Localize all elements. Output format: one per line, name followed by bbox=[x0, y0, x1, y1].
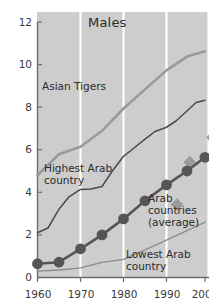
y-tick-0: 0 bbox=[6, 271, 32, 283]
x-tick-1980: 1980 bbox=[104, 288, 144, 300]
x-tick-2000: 2000 bbox=[185, 288, 209, 300]
y-tick-8: 8 bbox=[6, 101, 32, 113]
y-tick-2: 2 bbox=[6, 228, 32, 240]
y-tick-12: 12 bbox=[6, 16, 32, 28]
annotation-highest-arab-country: Highest Arab country bbox=[44, 162, 112, 186]
y-tick-6: 6 bbox=[6, 143, 32, 155]
y-tick-4: 4 bbox=[6, 186, 32, 198]
annotation-arab-countries-average: Arab countries (average) bbox=[148, 192, 199, 228]
annotation-asian-tigers: Asian Tigers bbox=[42, 80, 106, 92]
chart-figure: Males 12 10 8 6 4 2 0 1960 1970 1980 199… bbox=[0, 0, 209, 308]
y-tick-10: 10 bbox=[6, 58, 32, 70]
x-tick-1970: 1970 bbox=[61, 288, 101, 300]
annotation-lowest-arab-country: Lowest Arab country bbox=[126, 248, 191, 272]
x-tick-1960: 1960 bbox=[18, 288, 58, 300]
x-tick-1990: 1990 bbox=[147, 288, 187, 300]
chart-title: Males bbox=[88, 15, 127, 30]
top-white-strip bbox=[0, 0, 209, 12]
